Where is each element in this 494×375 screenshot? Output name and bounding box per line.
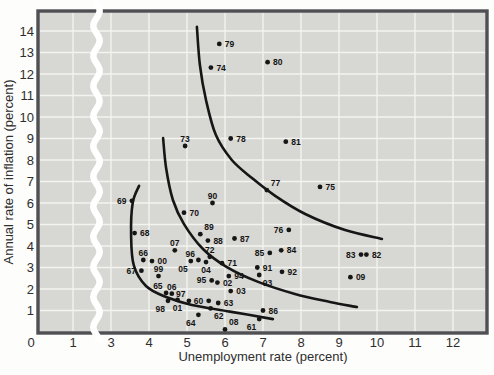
- year-label: 83: [346, 250, 356, 260]
- year-label: 06: [167, 282, 177, 292]
- data-point: [232, 236, 237, 241]
- year-label: 81: [291, 137, 301, 147]
- data-point: [286, 228, 291, 233]
- y-tick-label: 8: [27, 153, 34, 168]
- year-label: 85: [255, 248, 265, 258]
- year-label: 80: [273, 57, 283, 67]
- year-label: 79: [225, 39, 235, 49]
- data-point: [255, 265, 260, 270]
- year-label: 76: [274, 225, 284, 235]
- data-point: [188, 259, 193, 264]
- year-label: 00: [158, 256, 168, 266]
- data-point: [220, 261, 225, 266]
- scatter-chart: 6061626364656667686970717273747576777879…: [0, 0, 494, 375]
- year-label: 60: [194, 296, 204, 306]
- data-point: [280, 269, 285, 274]
- y-axis-title: Annual rate of inflation (percent): [1, 80, 16, 265]
- year-label: 02: [223, 278, 233, 288]
- y-tick-label: 10: [20, 110, 34, 125]
- data-point: [150, 259, 155, 264]
- data-point: [215, 280, 220, 285]
- data-point: [172, 248, 177, 253]
- data-point: [264, 188, 269, 193]
- x-tick-label: 7: [259, 335, 266, 350]
- x-tick-label: 10: [370, 335, 384, 350]
- year-label: 71: [228, 258, 238, 268]
- data-point: [208, 306, 213, 311]
- year-label: 89: [204, 222, 214, 232]
- x-tick-label: 6: [221, 335, 228, 350]
- y-tick-label: 9: [27, 131, 34, 146]
- year-label: 05: [178, 264, 188, 274]
- data-point: [206, 238, 211, 243]
- year-label: 73: [180, 134, 190, 144]
- data-point: [228, 136, 233, 141]
- data-point: [364, 252, 369, 257]
- data-point: [139, 268, 144, 273]
- data-point: [265, 60, 270, 65]
- y-tick-label: 1: [27, 303, 34, 318]
- data-point: [187, 298, 192, 303]
- data-point: [169, 291, 174, 296]
- year-label: 08: [229, 317, 239, 327]
- y-tick-label: 6: [27, 196, 34, 211]
- y-tick-label: 3: [27, 260, 34, 275]
- year-label: 88: [213, 236, 223, 246]
- year-label: 68: [140, 228, 150, 238]
- data-point: [130, 198, 135, 203]
- y-axis-tick-labels: 1234567891011121314: [20, 24, 34, 319]
- y-tick-label: 2: [27, 282, 34, 297]
- year-label: 92: [288, 267, 298, 277]
- y-tick-label: 5: [27, 217, 34, 232]
- year-label: 61: [247, 322, 257, 332]
- year-label: 69: [117, 196, 127, 206]
- data-point: [257, 273, 262, 278]
- year-label: 94: [234, 271, 244, 281]
- year-label: 82: [372, 250, 382, 260]
- data-point: [166, 298, 171, 303]
- year-label: 86: [269, 306, 279, 316]
- y-tick-label: 13: [20, 45, 34, 60]
- year-label: 07: [170, 238, 180, 248]
- y-tick-label: 14: [20, 24, 34, 39]
- x-tick-label: 1: [69, 335, 76, 350]
- data-point: [209, 278, 214, 283]
- data-point: [206, 298, 211, 303]
- x-axis-tick-labels: 013456789101112: [27, 335, 460, 350]
- year-label: 95: [197, 275, 207, 285]
- x-tick-label: 0: [27, 335, 34, 350]
- year-label: 93: [263, 278, 273, 288]
- year-label: 98: [156, 304, 166, 314]
- year-label: 65: [153, 281, 163, 291]
- year-label: 04: [201, 265, 211, 275]
- data-point: [207, 254, 212, 259]
- data-point: [210, 201, 215, 206]
- year-label: 67: [126, 266, 136, 276]
- data-point: [132, 231, 137, 236]
- year-label: 03: [236, 286, 246, 296]
- year-label: 01: [173, 303, 183, 313]
- year-label: 70: [190, 208, 200, 218]
- year-label: 96: [185, 249, 195, 259]
- year-label: 84: [287, 245, 297, 255]
- year-label: 72: [205, 245, 215, 255]
- data-point: [283, 139, 288, 144]
- year-label: 74: [216, 63, 226, 73]
- y-tick-label: 11: [21, 88, 35, 103]
- year-label: 75: [326, 182, 336, 192]
- data-point: [204, 260, 209, 265]
- year-label: 87: [240, 234, 250, 244]
- data-point: [217, 42, 222, 47]
- data-point: [261, 308, 266, 313]
- phillips-curve-figure: 6061626364656667686970717273747576777879…: [0, 0, 494, 375]
- data-point: [348, 275, 353, 280]
- year-label: 66: [139, 248, 149, 258]
- data-point: [257, 317, 262, 322]
- data-point: [209, 65, 214, 70]
- data-point: [359, 252, 364, 257]
- y-tick-label: 12: [20, 67, 34, 82]
- data-point: [156, 274, 161, 279]
- year-label: 97: [176, 289, 186, 299]
- x-tick-label: 9: [335, 335, 342, 350]
- year-label: 91: [263, 263, 273, 273]
